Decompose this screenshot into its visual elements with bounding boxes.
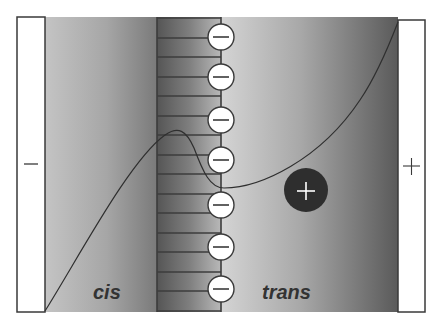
trans-label: trans <box>262 281 311 303</box>
right-electrode <box>398 20 425 312</box>
negative-charge-icon <box>208 64 234 90</box>
negative-charge-icon <box>208 276 234 302</box>
left-electrode <box>17 17 45 312</box>
negative-charge-icon <box>208 107 234 133</box>
negative-charge-icon <box>208 234 234 260</box>
cation-icon <box>284 168 328 212</box>
cis-region <box>45 17 157 312</box>
negative-charge-icon <box>208 192 234 218</box>
negative-charge-icon <box>208 147 234 173</box>
negative-charge-icon <box>208 24 234 50</box>
cis-label: cis <box>93 281 121 303</box>
membrane-potential-diagram: cis trans <box>0 0 441 329</box>
trans-region <box>221 17 398 312</box>
